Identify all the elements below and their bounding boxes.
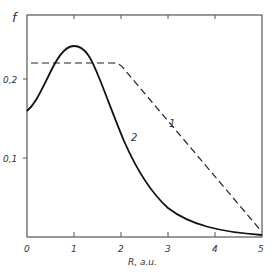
- chart: f 0,2 0,1 0 1 2 3 4 5 R, a.u. 1 2: [0, 0, 276, 272]
- x-axis-ticks: [74, 232, 215, 237]
- x-tick-label-3: 3: [165, 244, 171, 254]
- curve-1-dashed: [31, 63, 262, 232]
- x-tick-label-4: 4: [212, 244, 218, 254]
- y-axis-label: f: [12, 10, 19, 25]
- y-tick-label-01: 0,1: [3, 154, 17, 164]
- curve-2-label: 2: [131, 132, 137, 143]
- y-tick-label-02: 0,2: [3, 75, 18, 85]
- x-tick-label-2: 2: [118, 244, 124, 254]
- x-tick-label-5: 5: [258, 244, 264, 254]
- x-tick-label-0: 0: [24, 244, 30, 254]
- x-tick-label-1: 1: [71, 244, 77, 254]
- curve-2-solid: [27, 46, 262, 235]
- plot-frame: [27, 15, 262, 237]
- x-axis-label: R, a.u.: [128, 257, 157, 267]
- curve-1-label: 1: [169, 118, 175, 129]
